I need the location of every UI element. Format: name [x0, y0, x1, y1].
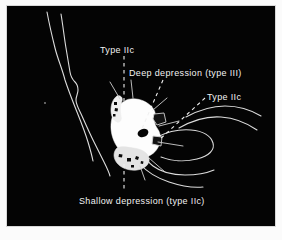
lesion-lower-granule-b: [127, 158, 131, 162]
lesion-diagram: [7, 6, 275, 226]
right-fold-line-2: [179, 117, 257, 130]
stria-1: [110, 82, 120, 99]
right-fold-line-1: [186, 106, 261, 117]
lesion-lower-granule-e: [141, 161, 144, 164]
lesion-upper-left-granule-b: [115, 108, 119, 112]
label-shallow-depression: Shallow depression (type IIc): [79, 196, 205, 206]
stria-2: [131, 80, 133, 98]
figure-root: Type IIc Deep depression (type III) Type…: [0, 0, 282, 240]
stria-3: [153, 98, 167, 110]
lesion-lower-granule-d: [131, 165, 134, 168]
lesion-upper-left-granule-a: [114, 102, 117, 105]
right-fold-line-3: [157, 130, 213, 161]
lesion-group: [110, 80, 183, 180]
right-fold-line-5: [140, 164, 203, 187]
lesion-upper-left-granule-c: [113, 114, 116, 117]
left-fold-line-1: [47, 12, 93, 161]
lesion-lower-granule-a: [119, 154, 123, 158]
label-deep-depression: Deep depression (type III): [129, 68, 242, 78]
label-type-iic-right: Type IIc: [207, 92, 241, 102]
label-type-iic-top: Type IIc: [100, 45, 134, 55]
stria-5: [158, 142, 183, 146]
right-margin-nodule-lower: [152, 136, 162, 146]
left-fold-lines: [47, 12, 110, 176]
left-fold-line-2: [61, 14, 110, 176]
photo-plate: Type IIc Deep depression (type III) Type…: [7, 6, 275, 226]
left-speck: [44, 102, 46, 104]
